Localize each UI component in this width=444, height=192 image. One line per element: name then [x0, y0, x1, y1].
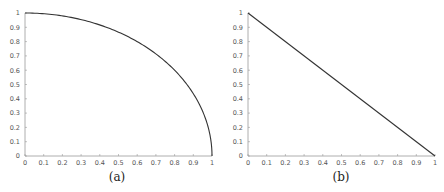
- chart-panel-b: 00.10.20.30.40.50.60.70.80.9100.10.20.30…: [222, 0, 444, 192]
- x-tick-label: 0.5: [113, 159, 123, 167]
- y-tick-label: 0: [16, 152, 20, 160]
- x-tick-label: 0.2: [280, 159, 290, 167]
- y-tick-label: 0.7: [233, 52, 243, 60]
- x-tick-label: 0.3: [299, 159, 309, 167]
- x-tick-label: 0.5: [336, 159, 346, 167]
- y-tick-label: 0.5: [233, 81, 243, 89]
- x-tick-label: 0.1: [262, 159, 272, 167]
- y-tick-label: 0.1: [10, 138, 20, 146]
- y-tick-label: 0.5: [10, 81, 20, 89]
- x-tick-label: 0.3: [76, 159, 86, 167]
- x-tick-label: 0: [246, 159, 250, 167]
- x-tick-label: 0.9: [188, 159, 198, 167]
- y-tick-label: 0.1: [233, 138, 243, 146]
- y-tick-label: 1: [239, 9, 243, 17]
- y-tick-label: 1: [16, 9, 20, 17]
- y-tick-label: 0.8: [10, 38, 20, 46]
- x-tick-label: 0.1: [39, 159, 49, 167]
- chart-panel-a: 00.10.20.30.40.50.60.70.80.9100.10.20.30…: [0, 0, 222, 192]
- x-tick-label: 0.8: [392, 159, 402, 167]
- x-tick-label: 0.8: [169, 159, 179, 167]
- plot-b: 00.10.20.30.40.50.60.70.80.9100.10.20.30…: [222, 0, 444, 170]
- x-tick-label: 0.4: [95, 159, 105, 167]
- series-line: [248, 13, 435, 156]
- y-tick-label: 0.4: [233, 95, 243, 103]
- axes: [25, 13, 212, 156]
- y-tick-label: 0.4: [10, 95, 20, 103]
- caption-a: (a): [97, 170, 137, 184]
- x-tick-label: 0.7: [151, 159, 161, 167]
- y-tick-label: 0.6: [233, 67, 243, 75]
- x-tick-label: 1: [210, 159, 214, 167]
- x-tick-label: 0.7: [374, 159, 384, 167]
- y-tick-label: 0.2: [233, 124, 243, 132]
- y-tick-label: 0.3: [10, 109, 20, 117]
- x-tick-label: 0: [23, 159, 27, 167]
- plot-a: 00.10.20.30.40.50.60.70.80.9100.10.20.30…: [0, 0, 222, 170]
- y-tick-label: 0.2: [10, 124, 20, 132]
- x-tick-label: 0.6: [132, 159, 142, 167]
- y-tick-label: 0.9: [233, 24, 243, 32]
- x-tick-label: 1: [433, 159, 437, 167]
- x-tick-label: 0.6: [355, 159, 365, 167]
- caption-b: (b): [321, 170, 361, 184]
- y-tick-label: 0: [239, 152, 243, 160]
- y-tick-label: 0.6: [10, 67, 20, 75]
- series-line: [25, 13, 212, 156]
- y-tick-label: 0.8: [233, 38, 243, 46]
- y-tick-label: 0.7: [10, 52, 20, 60]
- y-tick-label: 0.9: [10, 24, 20, 32]
- x-tick-label: 0.4: [318, 159, 328, 167]
- y-tick-label: 0.3: [233, 109, 243, 117]
- x-tick-label: 0.2: [57, 159, 67, 167]
- x-tick-label: 0.9: [411, 159, 421, 167]
